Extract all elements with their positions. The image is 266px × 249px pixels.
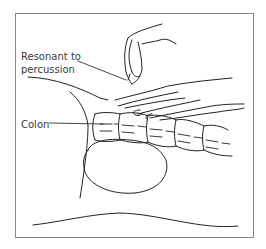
label-colon: Colon: [21, 118, 49, 131]
oval-organ: [84, 139, 167, 193]
leader-resonant: [78, 61, 126, 80]
label-line-2: percussion: [21, 63, 81, 76]
label-line-1: Resonant to: [21, 50, 81, 63]
plexor-hand: [125, 24, 176, 84]
colon: [93, 113, 232, 157]
abdomen-outline: [28, 77, 238, 227]
pleximeter-hand: [115, 78, 244, 120]
label-resonant-to-percussion: Resonant to percussion: [21, 50, 81, 76]
leader-colon: [49, 123, 104, 124]
